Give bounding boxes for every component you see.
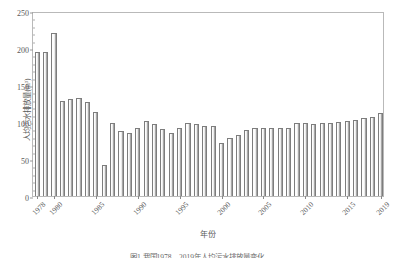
bar xyxy=(211,126,216,196)
bar xyxy=(378,113,383,196)
bar xyxy=(127,133,132,196)
bar xyxy=(43,52,48,196)
bar xyxy=(93,112,98,196)
bar xyxy=(160,129,165,196)
figure-container: 人均污水排放量(m³) 050100150200250 197819801985… xyxy=(0,0,394,258)
bar xyxy=(370,117,375,196)
x-tick-mark xyxy=(180,196,181,199)
bar xyxy=(51,33,56,196)
bar xyxy=(361,118,366,196)
x-tick-mark xyxy=(305,196,306,199)
y-tick-mark xyxy=(30,198,33,199)
bar xyxy=(152,124,157,196)
bar xyxy=(286,128,291,196)
bar xyxy=(219,143,224,196)
bar xyxy=(328,123,333,196)
bar xyxy=(227,138,232,196)
x-axis-title: 年份 xyxy=(32,228,384,239)
bar xyxy=(311,124,316,196)
x-tick-label: 1978 xyxy=(31,200,48,217)
bar xyxy=(269,128,274,196)
bar xyxy=(252,128,257,196)
bar xyxy=(320,123,325,196)
x-tick-label: 1980 xyxy=(47,200,64,217)
x-tick-mark xyxy=(347,196,348,199)
bar xyxy=(85,102,90,196)
bar xyxy=(169,133,174,196)
bar xyxy=(76,98,81,196)
x-tick-mark xyxy=(96,196,97,199)
bar xyxy=(118,131,123,196)
bar xyxy=(244,130,249,196)
x-tick-label: 2010 xyxy=(299,200,316,217)
bar xyxy=(60,101,65,196)
figure-caption: 图1 我国1978—2019年人均污水排放量变化 xyxy=(0,251,394,258)
plot-area: 050100150200250 197819801985199019952000… xyxy=(32,12,384,197)
x-tick-label: 2015 xyxy=(341,200,358,217)
bar xyxy=(236,135,241,196)
bar xyxy=(135,128,140,196)
bar xyxy=(110,123,115,196)
x-tick-mark xyxy=(138,196,139,199)
bar xyxy=(185,123,190,196)
bar xyxy=(194,124,199,196)
bar xyxy=(294,123,299,196)
bar xyxy=(177,128,182,196)
x-tick-mark xyxy=(37,196,38,199)
bar xyxy=(336,122,341,196)
bar xyxy=(303,123,308,196)
x-tick-label: 2019 xyxy=(374,200,391,217)
bar xyxy=(278,128,283,196)
x-tick-label: 1995 xyxy=(173,200,190,217)
x-tick-label: 1985 xyxy=(89,200,106,217)
x-tick-mark xyxy=(222,196,223,199)
x-tick-mark xyxy=(263,196,264,199)
bar xyxy=(345,121,350,196)
bar-series xyxy=(33,13,383,196)
bar xyxy=(202,126,207,196)
x-tick-label: 2005 xyxy=(257,200,274,217)
bar xyxy=(102,165,107,196)
bar xyxy=(353,120,358,196)
x-tick-mark xyxy=(54,196,55,199)
bar xyxy=(68,99,73,196)
bar xyxy=(35,52,40,196)
x-tick-mark xyxy=(381,196,382,199)
bar xyxy=(261,128,266,196)
x-tick-label: 2000 xyxy=(215,200,232,217)
bar xyxy=(144,121,149,196)
x-tick-label: 1990 xyxy=(131,200,148,217)
